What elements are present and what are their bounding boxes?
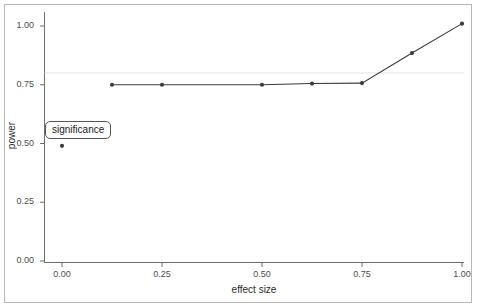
data-point bbox=[310, 81, 314, 85]
annotation-significance-label: significance bbox=[45, 121, 111, 139]
x-tick-label: 0.00 bbox=[42, 269, 82, 279]
y-axis-title: power bbox=[6, 106, 17, 166]
data-point bbox=[60, 144, 64, 148]
x-tick-label: 0.25 bbox=[142, 269, 182, 279]
x-axis-title: effect size bbox=[44, 284, 464, 295]
series-lines-group bbox=[112, 24, 462, 85]
x-tick-label: 0.50 bbox=[242, 269, 282, 279]
data-point bbox=[360, 81, 364, 85]
data-point bbox=[410, 51, 414, 55]
y-tick-label: 0.75 bbox=[4, 79, 34, 89]
chart-panel: 0.000.250.500.751.00 0.000.250.500.751.0… bbox=[0, 0, 477, 308]
data-point bbox=[260, 83, 264, 87]
data-point bbox=[460, 22, 464, 26]
chart-canvas bbox=[0, 0, 477, 308]
x-tick-label: 0.75 bbox=[342, 269, 382, 279]
series-line-0 bbox=[112, 24, 462, 85]
data-point bbox=[160, 83, 164, 87]
x-tick-label: 1.00 bbox=[442, 269, 477, 279]
y-tick-label: 0.25 bbox=[4, 196, 34, 206]
y-tick-label: 1.00 bbox=[4, 20, 34, 30]
data-point bbox=[110, 83, 114, 87]
y-tick-label: 0.00 bbox=[4, 255, 34, 265]
axis-ticks-group bbox=[40, 26, 462, 267]
